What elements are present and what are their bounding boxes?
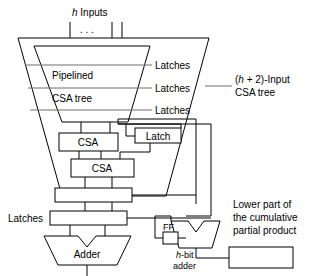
csa-lower-label: CSA [92,163,113,174]
latch-bar-1 [55,188,132,202]
h-bit-adder-label-line2: adder [173,261,196,271]
tree-label-line1: Pipelined [52,70,93,81]
csa-upper-label: CSA [78,137,99,148]
inputs-label: h Inputs [72,7,108,18]
inputs-label-rest: Inputs [78,7,108,18]
latches-label-2: Latches [155,83,190,94]
lower-note-line1: Lower part of [233,199,292,210]
ff-label: FF [163,222,174,232]
latches-left-label: Latches [8,213,43,224]
tree-label-line2: CSA tree [52,93,92,104]
lower-note-line3: partial product [233,225,297,236]
h-bit-suffix: -bit [181,250,194,260]
h-bit-adder-label-line1: h-bit [176,250,194,260]
adder-label: Adder [74,249,101,260]
latches-label-1: Latches [155,60,190,71]
side-note-line1: (h + 2)-Input [235,74,290,85]
h-bit-adder-output-wire [196,248,229,258]
latches-label-3: Latches [155,105,190,116]
side-note-line2: CSA tree [235,87,275,98]
latch-box-label: Latch [146,131,170,142]
inputs-ellipsis: . . . [80,24,94,35]
latch-bar-2 [50,211,127,225]
partial-product-register [229,247,293,268]
lower-note-line2: the cumulative [233,212,298,223]
csa-tree-diagram: h Inputs . . . Pipelined CSA tree Latche… [0,0,311,276]
latchbar-right-taps [127,195,211,218]
feedback-rail-far-right [186,124,211,216]
input-ticks [70,22,122,38]
side-note-suffix: + 2)-Input [244,74,290,85]
diagram-canvas: h Inputs . . . Pipelined CSA tree Latche… [0,0,311,276]
ff-block [163,232,178,244]
